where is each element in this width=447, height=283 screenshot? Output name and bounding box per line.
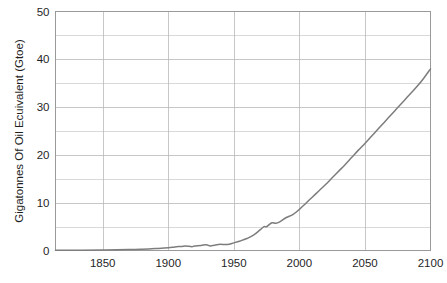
chart-figure: 01020304050 185019001950200020502100 Gig… xyxy=(0,0,447,283)
y-tick-label: 10 xyxy=(37,197,50,209)
x-tick-label: 1950 xyxy=(221,257,247,269)
x-tick-label: 2100 xyxy=(418,257,444,269)
chart-canvas: 01020304050 185019001950200020502100 Gig… xyxy=(0,0,447,283)
y-tick-label: 30 xyxy=(37,101,50,113)
y-tick-label: 50 xyxy=(37,6,50,18)
x-tick-label: 1900 xyxy=(155,257,181,269)
y-axis-title: Gigatonnes Of Oil Ecuivalent (Gtoe) xyxy=(13,39,25,223)
y-tick-label: 0 xyxy=(43,245,49,257)
y-tick-label: 20 xyxy=(37,149,50,161)
x-tick-label: 2000 xyxy=(287,257,313,269)
x-tick-label: 1850 xyxy=(90,257,116,269)
x-tick-label: 2050 xyxy=(352,257,378,269)
y-tick-label: 40 xyxy=(37,53,50,65)
plot-area-background xyxy=(56,12,431,251)
